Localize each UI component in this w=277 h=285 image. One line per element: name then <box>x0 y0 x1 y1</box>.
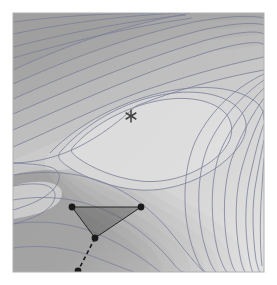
point-trial[interactable] <box>75 268 82 275</box>
point-vertex-2[interactable] <box>138 204 145 211</box>
figure-container: optimum * current simplex reflection / c… <box>0 0 277 285</box>
point-vertex-1[interactable] <box>69 204 76 211</box>
contour-plot <box>0 0 277 285</box>
lightness-ramp <box>13 13 264 272</box>
point-vertex-3[interactable] <box>92 235 99 242</box>
contour-bands <box>13 13 264 272</box>
